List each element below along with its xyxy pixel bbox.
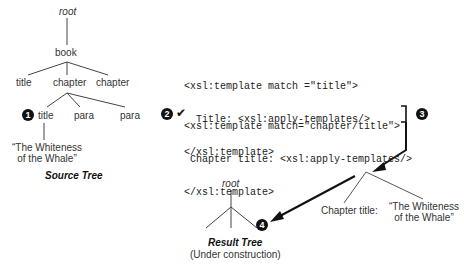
result-tree-caption: Result Tree xyxy=(208,237,262,248)
marker-1-bullet: 1 xyxy=(22,109,34,121)
template-chapter-title-line-1: <xsl:template match="chapter/title"> xyxy=(184,121,412,132)
source-chapter-node: chapter xyxy=(53,77,86,88)
template-title-line-1: <xsl:template match ="title"> xyxy=(184,81,370,92)
fragment-text-line-2: of the Whale” xyxy=(384,212,464,223)
source-book-node: book xyxy=(55,47,77,58)
source-para-node-2: para xyxy=(120,110,140,121)
source-text-line-1: “The Whiteness xyxy=(12,142,82,153)
result-tree-subcaption: (Under construction) xyxy=(190,249,281,260)
fragment-text-line-1: “The Whiteness xyxy=(384,201,464,212)
source-chapter-title-node: title xyxy=(38,110,54,121)
marker-4-bullet: 4 xyxy=(256,219,268,231)
marker-2-bullet: 2 xyxy=(161,108,173,120)
source-tree-caption: Source Tree xyxy=(45,170,103,181)
source-root-node: root xyxy=(59,6,76,17)
template-chapter-title-line-2: Chapter title: <xsl:apply-templates/> xyxy=(184,154,412,165)
result-root-node: root xyxy=(222,178,239,189)
source-para-node: para xyxy=(74,110,94,121)
checkmark-icon: ✔ xyxy=(176,108,186,119)
template-chapter-title: <xsl:template match="chapter/title"> Cha… xyxy=(184,99,412,209)
source-text-node: “The Whiteness of the Whale” xyxy=(12,142,82,164)
source-chapter-node-2: chapter xyxy=(96,77,129,88)
source-text-line-2: of the Whale” xyxy=(12,153,82,164)
fragment-text-node: “The Whiteness of the Whale” xyxy=(384,201,464,223)
source-title-node: title xyxy=(16,77,32,88)
marker-3-bullet: 3 xyxy=(416,108,428,120)
template-chapter-title-line-3: </xsl:template> xyxy=(184,187,412,198)
fragment-chapter-title-text: Chapter title: xyxy=(321,205,378,216)
